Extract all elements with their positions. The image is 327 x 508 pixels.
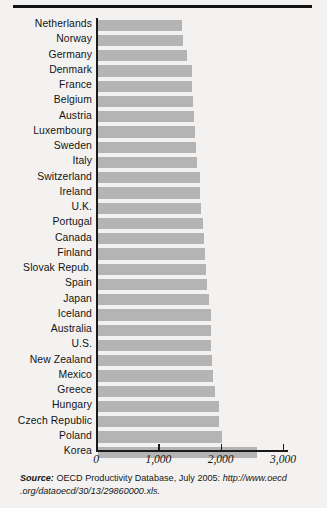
- bar: [98, 126, 195, 137]
- chart-figure: NetherlandsNorwayGermanyDenmarkFranceBel…: [0, 0, 327, 508]
- x-tick-label: 1,000: [145, 453, 171, 465]
- bar-row: Finland: [0, 247, 327, 262]
- bar: [98, 401, 219, 412]
- bar-row: Denmark: [0, 64, 327, 79]
- category-label: Sweden: [0, 139, 92, 153]
- bar-row: Ireland: [0, 186, 327, 201]
- bar: [98, 279, 207, 290]
- bar-row: Greece: [0, 384, 327, 399]
- category-label: Netherlands: [0, 17, 92, 31]
- category-label: Australia: [0, 322, 92, 336]
- category-label: Greece: [0, 383, 92, 397]
- x-tick-label: 2,000: [208, 453, 234, 465]
- bar: [98, 65, 192, 76]
- category-label: New Zealand: [0, 353, 92, 367]
- bar-row: Slovak Repub.: [0, 262, 327, 277]
- source-note: Source: OECD Productivity Database, July…: [20, 472, 312, 497]
- bar: [98, 340, 211, 351]
- bar: [98, 309, 211, 320]
- bar: [98, 81, 192, 92]
- category-label: Portugal: [0, 215, 92, 229]
- category-label: Finland: [0, 246, 92, 260]
- bar-row: Canada: [0, 232, 327, 247]
- x-tick-label: 3,000: [270, 453, 296, 465]
- bar: [98, 172, 200, 183]
- source-text: OECD Productivity Database, July 2005:: [54, 473, 223, 483]
- bar-row: Czech Republic: [0, 415, 327, 430]
- category-label: U.K.: [0, 200, 92, 214]
- bar-row: Japan: [0, 293, 327, 308]
- bar: [98, 20, 182, 31]
- bar: [98, 355, 212, 366]
- category-label: Switzerland: [0, 170, 92, 184]
- bar: [98, 187, 200, 198]
- bar: [98, 142, 196, 153]
- bar-row: Norway: [0, 33, 327, 48]
- bar-row: Hungary: [0, 399, 327, 414]
- bar-row: U.S.: [0, 338, 327, 353]
- category-label: Germany: [0, 48, 92, 62]
- source-label: Source:: [20, 473, 54, 483]
- bar-row: U.K.: [0, 201, 327, 216]
- bar: [98, 248, 205, 259]
- bar-row: Switzerland: [0, 171, 327, 186]
- bar: [98, 370, 213, 381]
- bar: [98, 416, 219, 427]
- figure-top-rule: [13, 5, 312, 8]
- category-label: Spain: [0, 276, 92, 290]
- category-label: Korea: [0, 444, 92, 458]
- category-label: Belgium: [0, 93, 92, 107]
- source-url-line2: .org/dataoecd/30/13/29860000.xls.: [20, 486, 160, 496]
- category-label: U.S.: [0, 337, 92, 351]
- category-label: Canada: [0, 231, 92, 245]
- bar-row: Italy: [0, 155, 327, 170]
- bar-row: Netherlands: [0, 18, 327, 33]
- category-label: Czech Republic: [0, 414, 92, 428]
- x-tick: [158, 444, 159, 451]
- category-label: Mexico: [0, 368, 92, 382]
- x-tick: [96, 444, 97, 451]
- category-label: France: [0, 78, 92, 92]
- bar: [98, 111, 194, 122]
- bar-row: Austria: [0, 110, 327, 125]
- bar-row: Poland: [0, 430, 327, 445]
- category-label: Japan: [0, 292, 92, 306]
- bar-row: Mexico: [0, 369, 327, 384]
- category-label: Luxembourg: [0, 124, 92, 138]
- category-label: Ireland: [0, 185, 92, 199]
- x-tick: [283, 444, 284, 451]
- bar-row: Portugal: [0, 216, 327, 231]
- bar: [98, 157, 197, 168]
- bar: [98, 218, 203, 229]
- category-label: Italy: [0, 154, 92, 168]
- x-tick: [221, 444, 222, 451]
- source-url-line1: http://www.oecd: [223, 473, 287, 483]
- bar-row: Spain: [0, 277, 327, 292]
- bar: [98, 431, 222, 442]
- category-label: Denmark: [0, 63, 92, 77]
- category-label: Iceland: [0, 307, 92, 321]
- bar-row: Germany: [0, 49, 327, 64]
- x-tick-label: 0: [93, 453, 99, 465]
- bar-row: Iceland: [0, 308, 327, 323]
- bar: [98, 50, 187, 61]
- chart-plot-area: NetherlandsNorwayGermanyDenmarkFranceBel…: [0, 18, 327, 454]
- bar: [98, 35, 183, 46]
- category-label: Poland: [0, 429, 92, 443]
- bar: [98, 386, 215, 397]
- category-label: Hungary: [0, 398, 92, 412]
- bar-rows: NetherlandsNorwayGermanyDenmarkFranceBel…: [0, 18, 327, 460]
- category-label: Slovak Repub.: [0, 261, 92, 275]
- category-label: Austria: [0, 109, 92, 123]
- x-axis-line: [96, 450, 288, 452]
- bar: [98, 264, 206, 275]
- bar-row: New Zealand: [0, 354, 327, 369]
- bar-row: Belgium: [0, 94, 327, 109]
- bar-row: France: [0, 79, 327, 94]
- bar: [98, 294, 209, 305]
- bar: [98, 203, 201, 214]
- bar: [98, 233, 204, 244]
- bar-row: Australia: [0, 323, 327, 338]
- bar: [98, 325, 211, 336]
- bar: [98, 96, 193, 107]
